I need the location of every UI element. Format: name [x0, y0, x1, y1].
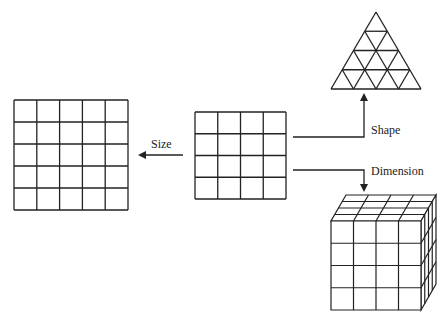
cube-grid: [331, 195, 436, 310]
shape-label: Shape: [371, 124, 400, 136]
larger-grid-5x5: [14, 100, 128, 210]
diagram-canvas: Size Shape Dimension: [0, 0, 448, 318]
triangular-grid: [331, 12, 421, 89]
center-grid-4x4: [195, 112, 286, 199]
diagram-svg: [0, 0, 448, 318]
dimension-label: Dimension: [371, 165, 424, 177]
shape-arrow: [293, 95, 364, 137]
size-label: Size: [151, 138, 172, 150]
dimension-arrow: [293, 170, 364, 190]
